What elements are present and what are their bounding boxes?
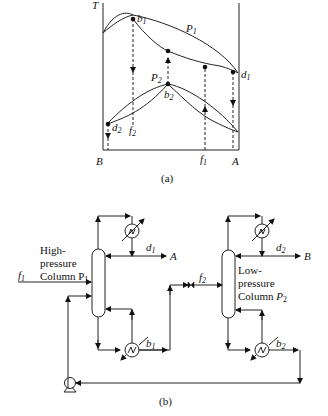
p1-left-lobe-lower [103,15,133,33]
valve-icon [188,282,194,288]
pump-icon [65,378,76,389]
label-d2: d2 [112,121,122,135]
label-f2: f2 [129,124,136,138]
point-mid-p1 [166,49,171,54]
column1-bottoms-line [98,317,120,350]
stream-f2-label: f2 [199,271,206,285]
reboiler2-condensate-arrow [251,355,256,360]
stream-d1-label: d1 [146,241,156,255]
panel-a-phase-diagram: T b1 P1 d1 P2 b2 f2 d2 f1 B [92,0,251,185]
point-d2 [106,122,111,127]
column2-bottoms-line [228,318,250,350]
reboiler1-condensate-arrow [121,355,126,360]
high-pressure-column [92,249,105,317]
column2-label-line2: pressure [238,277,275,289]
stream-b1-label: b1 [146,337,156,351]
caption-b: (b) [159,395,172,408]
column2-label-line3: Column P2 [238,290,287,304]
reboiler1-coil [128,347,136,353]
p2-bubble-left [107,84,168,124]
reboiler1-vapor-return [106,309,132,343]
column2-label-line1: Low- [238,264,262,276]
stream-f1-label: f1 [18,269,25,283]
pump-base [64,387,76,392]
p1-dew-curve [103,13,238,73]
column1-label-line1: High- [40,244,66,256]
label-b2: b2 [164,88,174,102]
x-right-label: A [231,155,239,167]
point-d1 [231,70,236,75]
stream-b2-label: b2 [276,337,286,351]
label-p2: P2 [150,71,162,85]
label-p1: P1 [185,22,197,36]
x-left-label: B [96,155,103,167]
stream-d2-label: d2 [276,241,286,255]
point-b1 [131,17,136,22]
p2-dew-curve [107,84,238,132]
extractive-distillation-diagram: T b1 P1 d1 P2 b2 f2 d2 f1 B [0,0,328,416]
label-d1: d1 [241,68,251,82]
label-f1: f1 [200,153,207,167]
product-b-label: B [304,250,311,262]
product-a-label: A [169,250,177,262]
reboiler2-coil [258,347,266,353]
point-f1-on-p1 [203,65,208,70]
caption-a: (a) [161,172,174,185]
low-pressure-column [222,250,235,318]
reboiler2-vapor-return [236,310,262,343]
panel-b-process-flow: d1 A f1 High- pressure Column P1 b1 f2 [18,216,311,408]
column1-label-line2: pressure [40,257,77,269]
recycle-to-column1 [68,296,91,388]
point-b2 [166,82,171,87]
label-b1: b1 [137,12,147,26]
p2-bubble-right [168,84,238,132]
y-axis-label: T [92,0,99,11]
column1-label-line3: Column P1 [40,270,88,284]
